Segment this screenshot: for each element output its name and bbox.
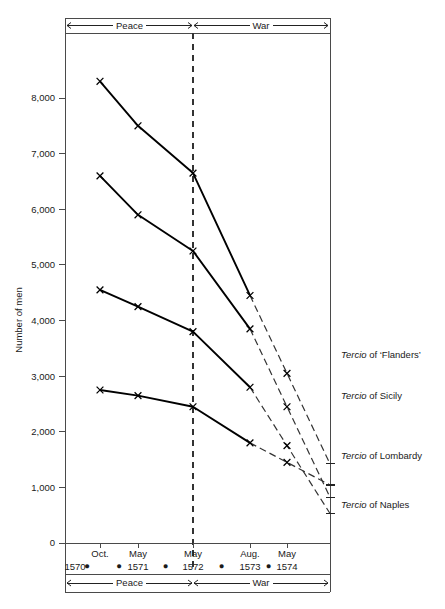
legend-label-0-rest: of ‘Flanders’ [367,349,421,360]
x-year-separator-dot-3: ● [266,560,272,571]
legend-label-2-italic: Tercio [341,450,367,461]
x-year-label-4: 1574 [276,561,297,572]
y-tick-label-2000: 2,000 [31,426,55,437]
series-3-marker-3 [247,439,254,446]
bottom-band-war-label: War [252,577,269,588]
series-2-marker-1 [135,303,142,310]
y-tick-label-6000: 6,000 [31,204,55,215]
y-tick-label-1000: 1,000 [31,482,55,493]
x-year-label-3: 1573 [239,561,260,572]
legend-label-3-italic: Tercio [341,499,367,510]
legend-label-1-rest: of Sicily [367,390,403,401]
y-axis-title: Number of men [13,287,24,352]
x-year-separator-dot-2: ● [219,560,225,571]
legend-label-1-italic: Tercio [341,390,367,401]
series-2-solid [100,290,250,387]
bottom-band-peace-label: Peace [116,577,143,588]
series-0-dashed [250,295,330,463]
legend-label-0-italic: Tercio [341,349,367,360]
chart-figure: PeaceWar01,0002,0003,0004,0005,0006,0007… [0,0,445,609]
x-month-label-1: May [129,548,147,559]
y-tick-label-4000: 4,000 [31,315,55,326]
top-band-peace-label: Peace [116,20,143,31]
x-year-label-first: 1570 [64,561,85,572]
series-0-marker-4 [284,370,291,377]
y-tick-label-8000: 8,000 [31,92,55,103]
series-1-marker-0 [97,172,104,179]
series-2-dashed [250,387,330,513]
legend-label-2: Tercio of Lombardy [341,450,422,461]
series-1-marker-4 [284,403,291,410]
legend-label-0: Tercio of ‘Flanders’ [341,349,421,360]
top-band-war-label: War [252,20,269,31]
series-1-marker-3 [247,325,254,332]
legend-label-2-rest: of Lombardy [367,450,423,461]
series-1-marker-1 [135,211,142,218]
x-year-separator-dot-first: ● [84,560,90,571]
x-year-separator-dot-0: ● [116,560,122,571]
series-3-marker-4 [284,459,291,466]
x-month-label-0: Oct. [91,548,108,559]
x-year-label-2: 1572 [182,561,203,572]
x-year-label-1: 1571 [127,561,148,572]
y-tick-label-3000: 3,000 [31,371,55,382]
series-2-marker-3 [247,384,254,391]
legend-label-3: Tercio of Naples [341,499,410,510]
series-2-marker-4 [284,442,291,449]
series-3-solid [100,390,250,443]
series-1-dashed [250,329,330,497]
x-month-label-3: Aug. [240,548,260,559]
series-0-solid [100,81,250,295]
series-0-marker-0 [97,78,104,85]
y-tick-label-0: 0 [50,537,55,548]
x-month-label-2: May [184,548,202,559]
tercio-strength-line-chart: PeaceWar01,0002,0003,0004,0005,0006,0007… [0,0,445,609]
series-2-marker-0 [97,287,104,294]
series-0-marker-3 [247,292,254,299]
x-year-separator-dot-1: ● [163,560,169,571]
series-0-marker-1 [135,122,142,129]
legend-label-1: Tercio of Sicily [341,390,402,401]
legend-label-3-rest: of Naples [367,499,410,510]
y-tick-label-7000: 7,000 [31,148,55,159]
y-tick-label-5000: 5,000 [31,259,55,270]
x-month-label-4: May [278,548,296,559]
series-1-solid [100,176,250,329]
